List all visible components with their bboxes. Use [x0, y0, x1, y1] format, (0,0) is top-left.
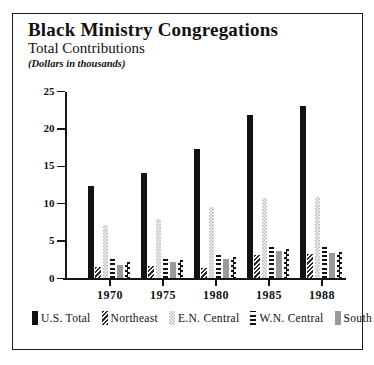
y-axis-tick-label: 5 [35, 234, 55, 246]
y-axis-tick-label: 15 [35, 159, 55, 171]
bar-u-s-total-1970 [88, 186, 94, 279]
x-axis-label: 1988 [302, 288, 342, 303]
bar-west-1988 [337, 252, 343, 279]
bar-u-s-total-1988 [300, 106, 306, 279]
bar-w-n-central-1988 [322, 246, 328, 279]
x-axis-label: 1970 [90, 288, 130, 303]
legend-swatch-horizontal-stripes [250, 311, 256, 325]
bar-w-n-central-1975 [163, 257, 169, 279]
bar-west-1975 [178, 260, 184, 279]
bar-south-1970 [117, 265, 123, 278]
y-axis-tick [57, 203, 65, 205]
legend-label: E.N. Central [178, 312, 239, 324]
x-axis-tick [215, 280, 217, 286]
bar-u-s-total-1980 [194, 149, 200, 278]
bar-west-1970 [125, 262, 131, 278]
bar-e-n-central-1980 [209, 207, 215, 279]
legend-item-south: South [335, 311, 372, 325]
x-axis-label: 1975 [143, 288, 183, 303]
bar-e-n-central-1975 [156, 219, 162, 279]
y-axis-line [65, 92, 67, 281]
legend-label: South [344, 312, 372, 324]
x-axis-tick [162, 280, 164, 286]
x-axis-tick [268, 280, 270, 286]
x-axis-label: 1980 [196, 288, 236, 303]
legend-item-u-s-total: U.S. Total [32, 311, 91, 325]
bar-w-n-central-1980 [216, 255, 222, 279]
bar-e-n-central-1988 [315, 197, 321, 279]
y-axis-tick [57, 91, 65, 93]
legend-label: U.S. Total [41, 312, 91, 324]
chart-legend: U.S. TotalNortheastE.N. CentralW.N. Cent… [32, 311, 362, 325]
y-axis-tick [57, 278, 65, 280]
bar-west-1985 [284, 249, 290, 278]
legend-swatch-solid-gray [335, 311, 341, 325]
bar-south-1985 [276, 251, 282, 279]
bar-w-n-central-1985 [269, 245, 275, 279]
legend-label: Northeast [111, 312, 158, 324]
bar-west-1980 [231, 257, 237, 279]
bar-u-s-total-1985 [247, 115, 253, 279]
bar-northeast-1975 [148, 266, 154, 279]
y-axis-tick-label: 20 [35, 122, 55, 134]
y-axis-tick [57, 128, 65, 130]
y-axis-tick [57, 166, 65, 168]
legend-swatch-solid-black [32, 311, 38, 325]
legend-swatch-light-checker [169, 311, 175, 325]
bar-northeast-1970 [95, 267, 101, 278]
legend-item-w-n-central: W.N. Central [250, 311, 323, 325]
legend-label: W.N. Central [259, 312, 323, 324]
bar-northeast-1980 [201, 268, 207, 278]
bar-w-n-central-1970 [110, 259, 116, 278]
y-axis-tick-label: 10 [35, 197, 55, 209]
legend-item-e-n-central: E.N. Central [169, 311, 239, 325]
bar-south-1980 [223, 259, 229, 278]
bar-e-n-central-1970 [103, 225, 109, 278]
x-axis-label: 1985 [249, 288, 289, 303]
x-axis-tick [321, 280, 323, 286]
y-axis-tick [57, 240, 65, 242]
legend-swatch-diagonal-hatch [102, 311, 108, 325]
y-axis-tick-label: 0 [35, 272, 55, 284]
bar-u-s-total-1975 [141, 173, 147, 278]
bar-northeast-1988 [307, 254, 313, 279]
bar-south-1975 [170, 262, 176, 278]
y-axis-tick-label: 25 [35, 85, 55, 97]
legend-item-northeast: Northeast [102, 311, 158, 325]
x-axis-tick [109, 280, 111, 286]
bar-e-n-central-1985 [262, 198, 268, 278]
bar-south-1988 [329, 253, 335, 278]
bar-northeast-1985 [254, 255, 260, 279]
